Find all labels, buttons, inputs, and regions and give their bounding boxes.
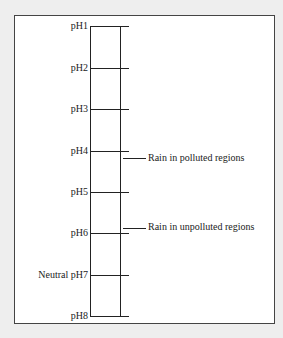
marker-unpolluted-label: Rain in unpolluted regions — [148, 221, 254, 233]
tick-ph7 — [90, 275, 129, 276]
label-ph3: pH3 — [0, 103, 88, 115]
label-ph5: pH5 — [0, 186, 88, 198]
marker-polluted-line — [123, 158, 146, 159]
scale-left-line — [90, 26, 91, 316]
tick-ph6 — [90, 233, 129, 234]
label-ph1: pH1 — [0, 20, 88, 32]
label-ph8: pH8 — [0, 310, 88, 322]
scale-right-line — [120, 26, 121, 316]
marker-polluted-label: Rain in polluted regions — [148, 152, 244, 164]
label-ph4: pH4 — [0, 145, 88, 157]
label-ph7-neutral: Neutral pH7 — [0, 269, 88, 281]
tick-ph2 — [90, 68, 129, 69]
marker-unpolluted-line — [123, 228, 146, 229]
tick-ph8 — [90, 316, 129, 317]
label-ph6: pH6 — [0, 227, 88, 239]
tick-ph4 — [90, 151, 129, 152]
tick-ph1 — [90, 26, 129, 27]
label-ph2: pH2 — [0, 62, 88, 74]
tick-ph3 — [90, 109, 129, 110]
tick-ph5 — [90, 192, 129, 193]
